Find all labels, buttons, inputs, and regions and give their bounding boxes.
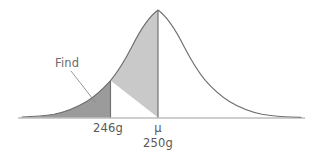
- x-tick-label-246g: 246g: [0, 121, 220, 135]
- find-leader-line: [71, 71, 96, 103]
- normal-distribution-figure: Find 246g μ 250g: [0, 0, 313, 162]
- x-tick-label-mean: μ: [140, 121, 176, 135]
- mid-shaded-region: [111, 10, 159, 118]
- find-annotation-label: Find: [55, 56, 79, 70]
- find-shaded-region: [22, 81, 111, 118]
- x-tick-label-250g: 250g: [137, 136, 179, 150]
